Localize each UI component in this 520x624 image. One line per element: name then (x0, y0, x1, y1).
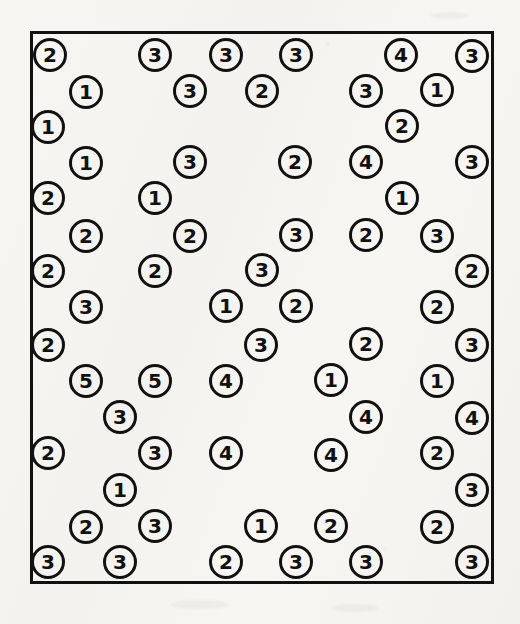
number-token-label: 4 (359, 152, 373, 172)
number-token[interactable]: 3 (209, 38, 243, 72)
number-token[interactable]: 3 (69, 290, 103, 324)
number-token[interactable]: 2 (209, 545, 243, 579)
number-token-label: 3 (79, 297, 93, 317)
number-token[interactable]: 2 (69, 219, 103, 253)
number-token[interactable]: 3 (349, 545, 383, 579)
number-token[interactable]: 4 (349, 400, 383, 434)
number-token[interactable]: 3 (279, 545, 313, 579)
number-token[interactable]: 4 (209, 364, 243, 398)
number-token[interactable]: 3 (279, 218, 313, 252)
number-token-label: 1 (219, 296, 233, 316)
number-token[interactable]: 3 (455, 145, 489, 179)
number-token[interactable]: 2 (420, 436, 454, 470)
number-token-label: 3 (359, 81, 373, 101)
number-token[interactable]: 3 (31, 545, 65, 579)
number-token[interactable]: 3 (455, 39, 489, 73)
number-token[interactable]: 2 (31, 181, 65, 215)
number-token-label: 2 (430, 443, 444, 463)
number-token-label: 3 (465, 46, 479, 66)
number-token-label: 1 (41, 117, 55, 137)
number-token[interactable]: 2 (173, 219, 207, 253)
number-token-label: 4 (219, 371, 233, 391)
number-token-label: 4 (465, 408, 479, 428)
number-token-label: 2 (288, 152, 302, 172)
number-token[interactable]: 2 (31, 254, 65, 288)
number-token[interactable]: 2 (33, 38, 67, 72)
number-token[interactable]: 4 (209, 436, 243, 470)
number-token-label: 1 (324, 370, 338, 390)
scanned-page: 2333431323112132432112232322323122232355… (0, 0, 520, 624)
number-token[interactable]: 1 (244, 509, 278, 543)
number-token[interactable]: 3 (138, 38, 172, 72)
number-token-label: 3 (430, 226, 444, 246)
number-token[interactable]: 4 (455, 401, 489, 435)
number-token[interactable]: 2 (69, 510, 103, 544)
number-token-label: 1 (79, 153, 93, 173)
number-token[interactable]: 4 (349, 145, 383, 179)
number-token[interactable]: 2 (278, 145, 312, 179)
number-token[interactable]: 2 (420, 290, 454, 324)
number-token[interactable]: 1 (69, 75, 103, 109)
number-token[interactable]: 2 (138, 254, 172, 288)
number-token[interactable]: 2 (385, 109, 419, 143)
number-token[interactable]: 1 (103, 473, 137, 507)
number-token[interactable]: 3 (103, 400, 137, 434)
number-token[interactable]: 2 (349, 218, 383, 252)
number-token[interactable]: 2 (420, 510, 454, 544)
number-token[interactable]: 3 (455, 328, 489, 362)
number-token[interactable]: 2 (31, 436, 65, 470)
number-token[interactable]: 1 (138, 181, 172, 215)
number-token[interactable]: 5 (69, 364, 103, 398)
number-token[interactable]: 3 (173, 74, 207, 108)
number-token[interactable]: 3 (279, 38, 313, 72)
number-token-label: 3 (255, 260, 269, 280)
number-token[interactable]: 3 (103, 545, 137, 579)
number-token[interactable]: 3 (349, 74, 383, 108)
number-token-label: 2 (430, 517, 444, 537)
number-token-label: 2 (41, 261, 55, 281)
number-token-label: 3 (465, 480, 479, 500)
number-token[interactable]: 3 (455, 473, 489, 507)
number-token-label: 4 (219, 443, 233, 463)
number-token-label: 3 (289, 45, 303, 65)
number-token[interactable]: 3 (455, 545, 489, 579)
number-token[interactable]: 5 (138, 364, 172, 398)
number-token[interactable]: 3 (138, 436, 172, 470)
number-token-label: 3 (148, 45, 162, 65)
number-token[interactable]: 2 (349, 327, 383, 361)
number-token[interactable]: 3 (138, 509, 172, 543)
scan-smudge (330, 604, 378, 612)
number-token[interactable]: 1 (69, 146, 103, 180)
number-token-label: 5 (79, 371, 93, 391)
number-token-label: 3 (41, 552, 55, 572)
number-token[interactable]: 3 (245, 253, 279, 287)
number-token[interactable]: 1 (209, 289, 243, 323)
number-token[interactable]: 2 (314, 509, 348, 543)
number-token[interactable]: 2 (245, 74, 279, 108)
number-token[interactable]: 3 (420, 219, 454, 253)
number-token-label: 2 (41, 443, 55, 463)
number-token-label: 2 (359, 225, 373, 245)
number-token[interactable]: 4 (314, 438, 348, 472)
number-token[interactable]: 1 (314, 363, 348, 397)
number-token[interactable]: 1 (385, 181, 419, 215)
scan-smudge (430, 12, 470, 19)
number-token-label: 3 (148, 443, 162, 463)
number-token[interactable]: 1 (31, 110, 65, 144)
number-token-label: 2 (79, 226, 93, 246)
number-token[interactable]: 1 (420, 73, 454, 107)
number-token-label: 2 (324, 516, 338, 536)
number-token-label: 1 (395, 188, 409, 208)
number-token[interactable]: 4 (384, 38, 418, 72)
number-token-label: 2 (219, 552, 233, 572)
number-token[interactable]: 2 (31, 328, 65, 362)
number-token-label: 2 (430, 297, 444, 317)
number-token[interactable]: 2 (455, 254, 489, 288)
number-token[interactable]: 2 (279, 289, 313, 323)
number-token-label: 3 (254, 335, 268, 355)
number-token[interactable]: 1 (420, 364, 454, 398)
number-token-label: 2 (183, 226, 197, 246)
number-token[interactable]: 3 (244, 328, 278, 362)
number-token[interactable]: 3 (173, 145, 207, 179)
number-token-label: 3 (183, 152, 197, 172)
